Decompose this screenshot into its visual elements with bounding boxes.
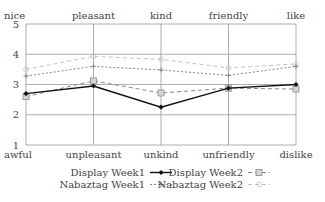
plus-marker: [24, 74, 29, 79]
legend-label: Display Week2: [169, 167, 243, 178]
legend-label: Nabaztag Week2: [157, 179, 243, 190]
semantic-differential-chart: 12345nicepleasantkindfriendlylikeawfulun…: [0, 0, 325, 202]
square-marker: [158, 90, 164, 96]
top-category-label: kind: [150, 10, 173, 21]
bottom-category-label: unkind: [144, 149, 180, 160]
top-category-label: nice: [4, 10, 25, 21]
plot-grid: [26, 24, 296, 145]
diamond-marker: [158, 170, 163, 175]
legend-label: Display Week1: [71, 167, 145, 178]
bottom-category-label: dislike: [279, 149, 312, 160]
plus-marker: [159, 67, 164, 72]
y-tick-label: 4: [13, 49, 19, 60]
plus-marker: [294, 64, 299, 69]
plus-marker: [226, 73, 231, 78]
top-category-label: friendly: [209, 10, 249, 21]
square-marker: [256, 170, 262, 176]
top-category-label: pleasant: [72, 10, 115, 21]
legend-label: Nabaztag Week1: [59, 179, 145, 190]
y-tick-label: 2: [13, 109, 19, 120]
diamond-marker: [158, 105, 163, 110]
top-category-label: like: [287, 10, 305, 21]
bottom-category-label: unfriendly: [202, 149, 255, 160]
plus-marker: [91, 64, 96, 69]
legend: Display Week1Display Week2Nabaztag Week1…: [59, 167, 270, 190]
square-marker: [91, 78, 97, 84]
bottom-category-label: awful: [4, 149, 32, 160]
bottom-category-label: unpleasant: [66, 149, 122, 160]
y-tick-label: 3: [13, 79, 19, 90]
